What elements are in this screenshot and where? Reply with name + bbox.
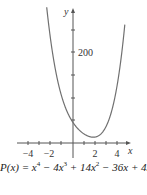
polynomial-graph: y x 200 −4 −2 2 4 <box>0 0 147 160</box>
caption-part: − 4x <box>40 161 63 173</box>
caption-part: P(x) = x <box>0 161 37 173</box>
y-tick-label-200: 200 <box>78 47 93 58</box>
polynomial-curve <box>47 7 125 137</box>
x-tick-label-neg2: −2 <box>44 148 55 159</box>
y-axis-arrow-icon <box>71 8 75 13</box>
caption-part: + 14x <box>67 161 96 173</box>
x-tick-label-4: 4 <box>115 148 120 159</box>
y-axis-label: y <box>63 6 69 17</box>
x-axis-label: x <box>127 145 133 156</box>
caption-part: − 36x + 45 <box>99 161 147 173</box>
function-caption: P(x) = x4 − 4x3 + 14x2 − 36x + 45 <box>0 160 147 173</box>
x-tick-label-2: 2 <box>93 148 98 159</box>
x-tick-label-neg4: −4 <box>23 148 34 159</box>
